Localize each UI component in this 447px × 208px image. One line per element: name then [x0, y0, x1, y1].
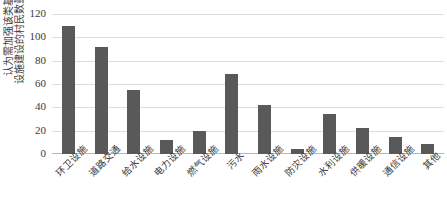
bar-slot: [346, 14, 379, 154]
bar-slot: [117, 14, 150, 154]
bar-slot: [85, 14, 118, 154]
bar-slot: [150, 14, 183, 154]
y-tick-label: 0: [12, 147, 46, 159]
bar-chart: 认为需加强该类基础 设施建设的村民数量(人) 0 20 40 60 80 100…: [0, 0, 447, 208]
bar: [323, 114, 336, 154]
y-tick-label: 100: [12, 30, 46, 42]
x-label-slot: 道路交通: [85, 155, 118, 208]
x-label-slot: 防灾设施: [281, 155, 314, 208]
bar: [258, 105, 271, 154]
bar-slot: [411, 14, 444, 154]
bar-slot: [183, 14, 216, 154]
x-label-slot: 给水设施: [117, 155, 150, 208]
bar-slot: [313, 14, 346, 154]
x-label-slot: 电力设施: [150, 155, 183, 208]
x-axis-labels: 环卫设施 道路交通 给水设施 电力设施 燃气设施 污水 雨水设施 防灾设施 水利…: [52, 155, 444, 208]
x-label-slot: 通信设施: [379, 155, 412, 208]
bar: [225, 74, 238, 155]
bar: [95, 47, 108, 154]
bar-slot: [215, 14, 248, 154]
y-tick-label: 20: [12, 124, 46, 136]
x-label-slot: 供暖设施: [346, 155, 379, 208]
bar-slot: [248, 14, 281, 154]
y-tick-label: 40: [12, 100, 46, 112]
bar: [127, 90, 140, 154]
x-label-slot: 水利设施: [313, 155, 346, 208]
x-label-slot: 环卫设施: [52, 155, 85, 208]
bar: [62, 26, 75, 154]
bars-layer: [52, 14, 444, 154]
y-tick-label: 60: [12, 77, 46, 89]
bar-slot: [52, 14, 85, 154]
bar-slot: [281, 14, 314, 154]
x-label-slot: 雨水设施: [248, 155, 281, 208]
x-label-slot: 其他: [411, 155, 444, 208]
x-label-slot: 燃气设施: [183, 155, 216, 208]
y-tick-label: 80: [12, 54, 46, 66]
x-label-slot: 污水: [215, 155, 248, 208]
y-tick-label: 120: [12, 7, 46, 19]
bar-slot: [379, 14, 412, 154]
